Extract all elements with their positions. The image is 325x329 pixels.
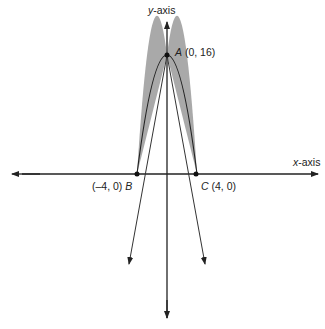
point-A — [165, 53, 170, 58]
point-B — [135, 172, 140, 177]
shaded-region-left — [137, 16, 167, 174]
point-B-label: (–4, 0) B — [92, 180, 132, 192]
shaded-region-right — [167, 16, 197, 174]
y-axis-label: y-axis — [147, 4, 175, 16]
point-C-label: C (4, 0) — [201, 180, 236, 192]
point-A-label: A (0, 16) — [174, 46, 215, 58]
coordinate-diagram: y-axis x-axis A (0, 16) (–4, 0) B C (4, … — [0, 0, 325, 329]
x-axis-label: x-axis — [292, 156, 320, 168]
point-C — [194, 172, 199, 177]
